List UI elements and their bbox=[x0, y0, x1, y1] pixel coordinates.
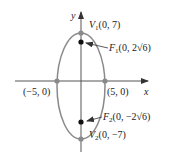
right-intercept-label: (5, 0) bbox=[107, 86, 129, 98]
f2-label: F2(0, −2√6) bbox=[102, 111, 150, 124]
vertex-v1-dot bbox=[78, 30, 83, 35]
f1-label: F1(0, 2√6) bbox=[108, 42, 151, 55]
x-intercept-right-dot bbox=[102, 78, 107, 83]
v2-label: V2(0, −7) bbox=[89, 129, 126, 142]
y-axis-label: y bbox=[70, 10, 76, 21]
v1-label: V1(0, 7) bbox=[89, 19, 120, 32]
focus-f2-dot bbox=[78, 119, 83, 124]
ellipse-diagram: y x V1(0, 7) F1(0, 2√6) (−5, 0) (5, 0) F… bbox=[0, 0, 179, 155]
vertex-v2-dot bbox=[78, 136, 83, 141]
x-intercept-left-dot bbox=[54, 78, 59, 83]
x-axis-label: x bbox=[143, 86, 149, 97]
focus-f1-dot bbox=[78, 39, 83, 44]
left-intercept-label: (−5, 0) bbox=[23, 86, 50, 98]
